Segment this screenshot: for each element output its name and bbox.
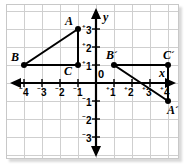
tick-value: 2: [86, 43, 92, 54]
point-letter: A: [167, 103, 175, 117]
y-tick-label-neg1: ⁻1: [82, 96, 92, 108]
point-label-a: A: [65, 15, 73, 27]
point-label-a-prime: A´: [167, 104, 179, 116]
y-axis-arrow-up: [91, 8, 101, 19]
x-axis-label: x: [159, 67, 165, 79]
point-label-b: B: [11, 51, 19, 63]
tick-value: 4: [164, 87, 170, 98]
coordinate-plane-figure: y x 0 ⁻4 ⁻3 ⁻2 ⁻1 ⁺1 ⁺2 ⁺3 ⁺4 ⁺3 ⁺2 ⁺1 ⁻…: [0, 0, 189, 167]
tick-value: 2: [128, 87, 134, 98]
plot-panel: y x 0 ⁻4 ⁻3 ⁻2 ⁻1 ⁺1 ⁺2 ⁺3 ⁺4 ⁺3 ⁺2 ⁺1 ⁻…: [6, 4, 179, 159]
x-tick-label-pos2: ⁺2: [124, 86, 134, 98]
tick-value: 3: [146, 87, 152, 98]
point-letter: A: [65, 14, 73, 28]
point-label-c-prime: C´: [163, 49, 175, 61]
tick-value: 2: [86, 115, 92, 126]
tick-value: 3: [86, 25, 92, 36]
point-c-prime: [165, 62, 171, 68]
x-tick-label-neg2: ⁻2: [55, 86, 65, 98]
y-tick-label-pos2: ⁺2: [82, 42, 92, 54]
point-letter: C: [64, 64, 72, 78]
point-letter: B: [106, 48, 114, 62]
tick-value: 1: [86, 97, 92, 108]
triangle-abc: [24, 29, 78, 65]
tick-value: 4: [23, 87, 29, 98]
y-axis-arrow-down: [91, 146, 101, 157]
origin-label: 0: [98, 69, 104, 80]
point-label-c: C: [64, 65, 72, 77]
point-letter: C: [163, 48, 171, 62]
axes-and-shapes: [7, 5, 178, 158]
y-tick-label-neg3: ⁻3: [82, 132, 92, 144]
tick-value: 3: [86, 133, 92, 144]
x-tick-label-pos4: ⁺4: [160, 86, 170, 98]
y-tick-label-pos3: ⁺3: [82, 24, 92, 36]
y-axis-label: y: [103, 11, 108, 23]
x-tick-label-pos1: ⁺1: [106, 86, 116, 98]
tick-value: 1: [110, 87, 116, 98]
tick-value: 2: [59, 87, 65, 98]
x-tick-label-neg4: ⁻4: [19, 86, 29, 98]
point-c: [75, 62, 81, 68]
point-label-b-prime: B´: [106, 49, 118, 61]
x-tick-label-neg3: ⁻3: [37, 86, 47, 98]
tick-value: 3: [41, 87, 47, 98]
prime-mark: ´: [171, 49, 175, 61]
prime-mark: ´: [175, 104, 179, 116]
point-b-prime: [111, 62, 117, 68]
point-b: [21, 62, 27, 68]
y-tick-label-neg2: ⁻2: [82, 114, 92, 126]
tick-value: 1: [86, 61, 92, 72]
point-a: [75, 26, 81, 32]
point-letter: B: [11, 50, 19, 64]
x-tick-label-pos3: ⁺3: [142, 86, 152, 98]
prime-mark: ´: [114, 49, 118, 61]
y-tick-label-pos1: ⁺1: [82, 60, 92, 72]
